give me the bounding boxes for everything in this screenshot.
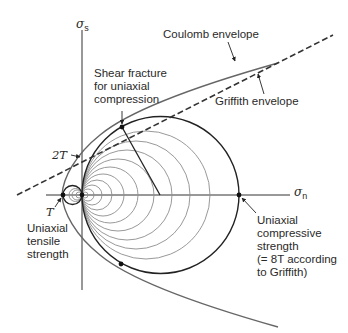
two-t-label: 2T [52, 149, 67, 162]
griffith-arrow [258, 74, 264, 94]
tensile-strength-point [61, 193, 66, 198]
shear-fracture-point [120, 125, 125, 130]
griffith-envelope-label: Griffith envelope [215, 95, 299, 108]
fracture-radius-line [122, 127, 160, 195]
compressive-strength-label: Uniaxial compressive strength (= 8T acco… [257, 214, 337, 279]
coulomb-arrow [228, 42, 235, 61]
t-arrow [55, 198, 61, 207]
sigma-n-label: σn [294, 186, 307, 200]
coulomb-envelope [17, 35, 333, 195]
sigma-s-label: σs [76, 18, 89, 32]
shear-fracture-label: Shear fracture for uniaxial compression [94, 67, 167, 106]
t-label: T [46, 206, 54, 219]
origin-point [80, 193, 85, 198]
tensile-strength-label: Uniaxial tensile strength [27, 222, 69, 261]
compressive-strength-point [237, 193, 242, 198]
lower-tangent-point [119, 262, 124, 267]
coulomb-envelope-label: Coulomb envelope [163, 28, 259, 41]
mohr-diagram [0, 0, 348, 333]
compressive-arrow [242, 198, 256, 213]
